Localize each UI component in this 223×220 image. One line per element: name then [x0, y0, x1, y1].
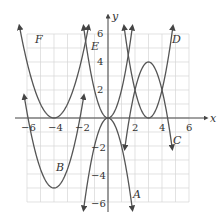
- x-tick-label: −6: [21, 122, 36, 133]
- curve-label-a: A: [132, 188, 141, 201]
- x-axis-label: x: [210, 112, 217, 125]
- x-tick-label: −4: [48, 122, 63, 133]
- y-tick-label: −6: [91, 198, 106, 209]
- curve-label-c: C: [173, 134, 182, 147]
- x-tick-label: 2: [132, 122, 138, 133]
- y-tick-label: 4: [97, 56, 103, 67]
- curve-label-e: E: [90, 40, 99, 53]
- y-tick-label: −2: [91, 142, 106, 153]
- y-tick-label: 2: [97, 84, 103, 95]
- graph: −6 −4 −2 2 4 6 6 4 2 −2 −4 −6 x y F E D …: [0, 0, 223, 220]
- x-tick-label: 4: [159, 122, 165, 133]
- y-tick-label: 6: [97, 28, 103, 39]
- curve-label-d: D: [171, 33, 181, 46]
- curve-label-f: F: [34, 33, 43, 46]
- curve-label-b: B: [55, 161, 64, 174]
- y-axis-label: y: [111, 10, 119, 23]
- x-tick-label: −2: [75, 122, 90, 133]
- x-tick-label: 6: [186, 122, 192, 133]
- y-tick-label: −4: [91, 170, 106, 181]
